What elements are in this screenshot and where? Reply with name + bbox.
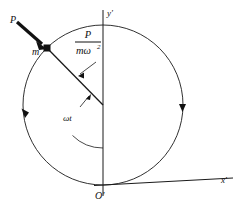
force-arrow-shaft	[17, 22, 42, 44]
y-axis-label: y'	[106, 8, 114, 18]
angle-leader-arrow-icon	[86, 94, 91, 100]
rotating-mass-diagram: P m P mω 2 ωt O' x' y'	[0, 0, 241, 209]
angle-arc	[73, 136, 104, 149]
amplitude-denominator-exponent: 2	[97, 43, 101, 51]
x-axis-label: x'	[220, 175, 228, 185]
amplitude-leader-line	[80, 62, 96, 74]
force-label: P	[9, 14, 16, 25]
angle-label: ωt	[63, 113, 72, 123]
amplitude-numerator: P	[84, 29, 92, 40]
direction-arrow-left-icon	[22, 109, 30, 119]
origin-label: O'	[95, 190, 105, 201]
mass-label: m	[32, 46, 39, 57]
figure-container: P m P mω 2 ωt O' x' y'	[0, 0, 241, 209]
amplitude-label: P mω 2	[75, 29, 101, 56]
direction-arrow-right-icon	[179, 104, 186, 112]
radius-line	[47, 48, 103, 105]
amplitude-denominator: mω	[76, 45, 91, 56]
x-axis	[94, 178, 233, 186]
